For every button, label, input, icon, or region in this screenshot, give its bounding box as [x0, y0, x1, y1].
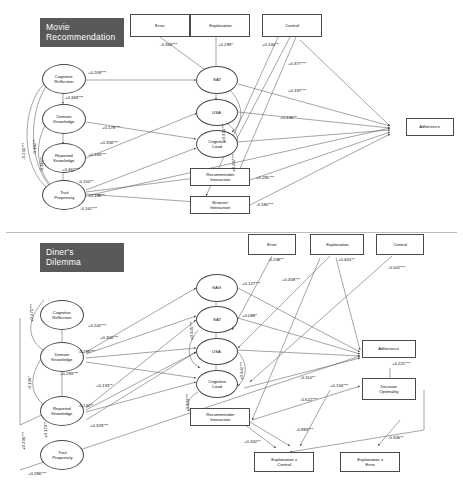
- node-browser-interaction-movie[interactable]: Browser Interaction: [190, 196, 250, 214]
- coef-dk-cload-movie: +0.178***: [102, 126, 120, 131]
- node-label: Domain Knowledge: [53, 114, 74, 124]
- coef-recint-exc-diner: +0.342**: [244, 440, 261, 445]
- coef-curve-3-movie: -0.231***: [22, 143, 27, 160]
- coef-tp-b-movie: +0.188**: [88, 194, 105, 199]
- node-recommender-interaction-movie[interactable]: Recommender Interaction: [190, 168, 250, 186]
- coef-vert-a-movie: +0.371***: [222, 124, 227, 142]
- figure-canvas: Movie Recommendation Cognitive Reflectio…: [0, 0, 463, 496]
- coef-tp-a-movie: -0.150**: [78, 180, 94, 185]
- coef-cr-curve-diner: +0.471***: [30, 304, 35, 322]
- coef-sag-right-diner: +0.458***: [282, 278, 300, 283]
- node-usa-diner[interactable]: USA: [196, 338, 238, 365]
- node-label: Decision Optimality: [379, 384, 398, 394]
- coef-explanation-sat-movie: +0.299*: [218, 43, 233, 48]
- node-adherence-movie[interactable]: Adherence: [406, 118, 454, 136]
- node-decision-optimality-diner[interactable]: Decision Optimality: [362, 378, 416, 400]
- node-label: Trait Propensity: [52, 450, 72, 460]
- node-label: Recommender Interaction: [206, 172, 234, 182]
- coef-dk-b-diner: +0.300***: [100, 336, 118, 341]
- coef-usa-vert-diner: +0.342***: [240, 362, 245, 380]
- node-label: SAG: [212, 285, 221, 290]
- panel-title-movie: Movie Recommendation: [40, 18, 124, 47]
- node-cognitive-reflection-diner[interactable]: Cognitive Reflection: [40, 300, 84, 330]
- node-usa-movie[interactable]: USA: [196, 99, 238, 126]
- coef-dk-c-diner: -0.289***: [78, 350, 95, 355]
- coef-recint-adh-movie: +0.285***: [256, 176, 274, 181]
- coef-bottom-long-diner: +0.286***: [28, 472, 46, 477]
- coef-error-sat-movie: -0.369***: [160, 43, 177, 48]
- node-label: Control: [393, 242, 407, 247]
- coef-dk-a-diner: +0.242***: [88, 324, 106, 329]
- node-cognitive-load-diner[interactable]: Cognitive Load: [196, 370, 238, 398]
- node-label: Cognitive Reflection: [54, 74, 73, 84]
- coef-cload-vert-diner: +0.303***: [186, 394, 191, 412]
- coef-cr-dk-movie: +0.369***: [65, 96, 83, 101]
- node-explanation-movie[interactable]: Explanation: [190, 14, 250, 37]
- node-domain-knowledge-diner[interactable]: Domain Knowledge: [40, 342, 84, 372]
- coef-tp-recint-movie: +0.358***: [100, 141, 118, 146]
- coef-exe-line-diner: -0.336**: [388, 436, 404, 441]
- coef-cr-sat-movie: +0.209***: [88, 71, 106, 76]
- coef-explanation-node-diner: +0.405**: [338, 258, 355, 263]
- coef-browint-adh-movie: -0.180***: [256, 203, 273, 208]
- coef-tp-c-movie: -0.161***: [80, 207, 97, 212]
- coef-rk-tp-movie: +0.462***: [62, 168, 80, 173]
- node-label: Explanation x Control: [271, 457, 297, 467]
- coef-mid-b-diner: -0.622***: [300, 398, 317, 403]
- node-label: Cognitive Reflection: [52, 310, 71, 320]
- coef-control-c-movie: +0.197***: [288, 89, 306, 94]
- node-sat-movie[interactable]: SAT: [196, 66, 238, 94]
- node-label: Adherence: [379, 346, 400, 351]
- node-label: Reported Knowledge: [51, 406, 72, 416]
- coef-adh-do-diner: +0.221***: [392, 362, 410, 367]
- coef-dk-rk-diner: +0.289***: [60, 372, 78, 377]
- node-label: Adherence: [420, 124, 441, 129]
- node-recommender-interaction-diner[interactable]: Recommender Interaction: [190, 408, 250, 426]
- coef-rk-b-diner: -0.140**: [78, 404, 94, 409]
- node-sag-diner[interactable]: SAG: [196, 274, 238, 302]
- node-label: Error: [267, 242, 277, 247]
- node-control-movie[interactable]: Control: [262, 14, 322, 37]
- node-cognitive-reflection-movie[interactable]: Cognitive Reflection: [42, 64, 86, 94]
- node-label: Error: [155, 23, 165, 28]
- coef-error-node-diner: -0.238**: [268, 258, 284, 263]
- node-explanation-x-control[interactable]: Explanation x Control: [254, 452, 314, 472]
- coef-mid-a-diner: -0.110**: [300, 376, 315, 381]
- coef-control-d-movie: +0.136**: [280, 116, 297, 121]
- node-label: USA: [213, 110, 222, 115]
- node-domain-knowledge-movie[interactable]: Domain Knowledge: [42, 104, 86, 134]
- node-label: Trait Propensity: [54, 190, 74, 200]
- node-label: SAT: [213, 77, 221, 82]
- node-label: Domain Knowledge: [51, 352, 72, 362]
- node-label: Explanation: [209, 23, 231, 28]
- coef-mid-c-diner: +0.156***: [330, 384, 348, 389]
- node-error-diner[interactable]: Error: [248, 234, 296, 255]
- coef-vert-b-movie: +0.487***: [232, 154, 237, 172]
- node-label: Reported Knowledge: [53, 153, 74, 163]
- panel-divider: [6, 232, 457, 233]
- node-error-movie[interactable]: Error: [130, 14, 190, 37]
- coef-sat-vert-diner: +0.345***: [190, 322, 195, 340]
- node-explanation-diner[interactable]: Explanation: [310, 234, 364, 255]
- coef-curve-left-2-diner: +0.206***: [22, 432, 27, 450]
- coef-tp-usa-diner: +0.329***: [90, 424, 108, 429]
- node-label: Control: [285, 23, 299, 28]
- coef-control-node-diner: -0.501***: [388, 266, 405, 271]
- node-label: SAT: [213, 317, 221, 322]
- node-adherence-diner[interactable]: Adherence: [362, 340, 416, 358]
- node-control-diner[interactable]: Control: [376, 234, 424, 255]
- node-label: Recommender Interaction: [206, 412, 234, 422]
- node-explanation-x-error[interactable]: Explanation x Error: [340, 452, 400, 472]
- node-trait-propensity-diner[interactable]: Trait Propensity: [40, 440, 84, 470]
- coef-rk-a-diner: +0.133**: [96, 384, 113, 389]
- node-label: Explanation x Error: [357, 457, 383, 467]
- node-sat-diner[interactable]: SAT: [196, 306, 238, 333]
- coef-sag-sat-diner: +0.127***: [242, 282, 260, 287]
- coef-curve-2-movie: -0.116**: [40, 157, 45, 172]
- panel-title-diner: Diner's Dilemma: [40, 243, 124, 272]
- coef-exc-line-diner: -0.883***: [296, 428, 313, 433]
- coef-control-b-movie: +0.377***: [288, 62, 306, 67]
- coef-control-sat-movie: +0.240**: [262, 43, 279, 48]
- coef-curve-left-1-diner: -0.136*: [28, 376, 33, 390]
- coef-sat-label-diner: +0.088*: [242, 314, 257, 319]
